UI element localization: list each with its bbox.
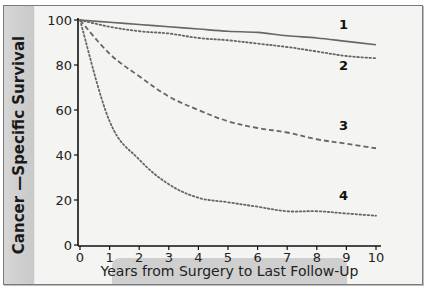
x-tick-label: 2 xyxy=(135,250,143,265)
y-tick-label: 40 xyxy=(55,148,72,163)
x-tick-label: 5 xyxy=(224,250,232,265)
y-tick-label: 0 xyxy=(64,238,72,253)
series-3-label: 3 xyxy=(339,118,348,133)
x-tick-label: 7 xyxy=(283,250,291,265)
chart-plot-area: 020406080100012345678910 1234 xyxy=(0,0,426,300)
y-tick-label: 20 xyxy=(55,193,72,208)
x-tick-label: 10 xyxy=(368,250,385,265)
y-tick-label: 100 xyxy=(47,13,72,28)
series-4-label: 4 xyxy=(339,188,348,203)
x-tick-label: 1 xyxy=(105,250,113,265)
x-tick-label: 4 xyxy=(194,250,202,265)
series-labels: 1234 xyxy=(339,17,348,203)
series-1-label: 1 xyxy=(339,17,348,32)
axes: 020406080100012345678910 xyxy=(47,13,384,266)
x-tick-label: 8 xyxy=(313,250,321,265)
x-tick-label: 3 xyxy=(165,250,173,265)
x-tick-label: 6 xyxy=(253,250,261,265)
y-tick-label: 60 xyxy=(55,103,72,118)
series-4-line xyxy=(80,20,376,216)
x-tick-label: 0 xyxy=(76,250,84,265)
data-series xyxy=(80,20,376,216)
series-2-label: 2 xyxy=(339,58,348,73)
x-tick-label: 9 xyxy=(342,250,350,265)
y-tick-label: 80 xyxy=(55,58,72,73)
